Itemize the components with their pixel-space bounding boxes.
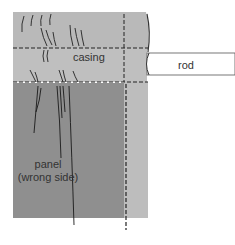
panel-wrong-side [13, 83, 124, 218]
side-hem-strip [124, 82, 148, 218]
diagram-canvas [0, 0, 235, 245]
casing-label: casing [73, 51, 105, 63]
rod-label: rod [178, 59, 194, 71]
wrong-side-label: (wrong side) [16, 171, 80, 183]
panel-label: panel [30, 158, 66, 170]
curtain-casing-diagram: casing rod panel (wrong side) [0, 0, 235, 245]
